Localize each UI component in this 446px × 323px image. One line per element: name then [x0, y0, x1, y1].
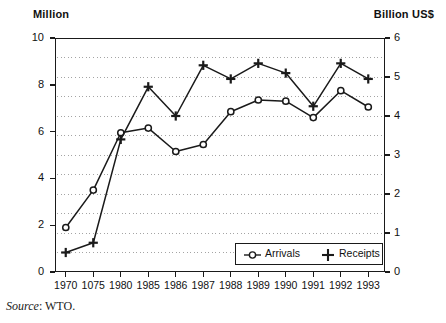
right-axis-tick-label: 3	[394, 149, 414, 160]
right-axis-tick-label: 5	[394, 71, 414, 82]
left-axis-tick-label: 0	[24, 266, 44, 277]
left-axis-tick-label: 10	[24, 32, 44, 43]
right-axis-tick-label: 2	[394, 188, 414, 199]
left-axis-tick-label: 6	[24, 126, 44, 137]
chart-legend: Arrivals Receipts	[235, 243, 383, 265]
open-circle-icon	[249, 252, 255, 258]
figure-chart-arrivals-receipts: Million Billion US$ 0246810 0123456 1970…	[0, 0, 446, 323]
plot-area-border	[55, 38, 385, 272]
left-axis-tick-label: 2	[24, 219, 44, 230]
left-axis-tick-label: 8	[24, 79, 44, 90]
right-axis-tick-label: 4	[394, 110, 414, 121]
plus-icon	[322, 249, 334, 261]
x-axis-tick-label: 1993	[348, 280, 388, 291]
source-value: WTO.	[45, 299, 75, 313]
source-caption: Source: WTO.	[6, 299, 75, 314]
source-separator: :	[39, 299, 42, 313]
right-axis-tick-label: 6	[394, 32, 414, 43]
right-axis-tick-label: 0	[394, 266, 414, 277]
right-axis-tick-label: 1	[394, 227, 414, 238]
left-axis-tick-label: 4	[24, 172, 44, 183]
legend-label-arrivals: Arrivals	[265, 247, 300, 259]
legend-label-receipts: Receipts	[339, 247, 380, 259]
source-prefix: Source	[6, 299, 39, 313]
